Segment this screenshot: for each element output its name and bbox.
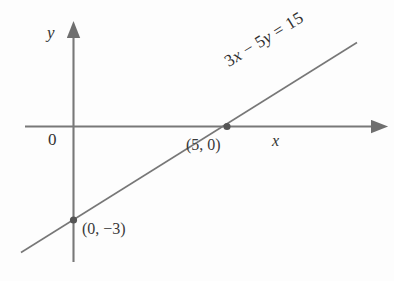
graph-figure: y x 0 (5, 0) (0, −3) 3x − 5y = 15 xyxy=(0,0,394,281)
y-intercept-label: (0, −3) xyxy=(82,221,126,237)
origin-label: 0 xyxy=(48,131,57,148)
point-marker-x-intercept xyxy=(223,123,230,130)
y-axis-label: y xyxy=(47,24,55,41)
x-axis-label: x xyxy=(272,133,279,149)
point-marker-y-intercept xyxy=(70,216,77,223)
x-intercept-label: (5, 0) xyxy=(186,137,221,153)
